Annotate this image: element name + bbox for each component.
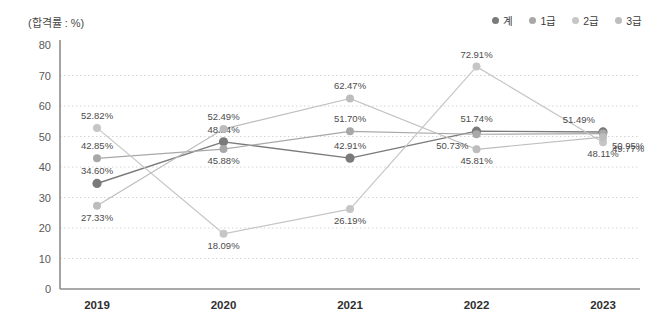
data-point-value-label: 52.49%: [207, 111, 240, 122]
data-point-value-label: 62.47%: [334, 80, 367, 91]
data-point-marker[interactable]: [346, 94, 354, 102]
y-axis-tick-label: 30: [39, 192, 51, 204]
y-axis-tick-label: 0: [45, 283, 51, 295]
data-point-marker[interactable]: [473, 130, 481, 138]
y-axis-tick-label: 40: [39, 161, 51, 173]
data-point-value-label: 51.74%: [460, 113, 493, 124]
x-axis-tick-label: 2022: [464, 299, 490, 311]
data-point-value-label: 51.49%: [563, 114, 596, 125]
data-point-marker[interactable]: [346, 205, 354, 213]
data-point-value-label: 42.85%: [81, 140, 114, 151]
data-point-value-label: 49.77%: [612, 143, 645, 154]
x-axis-tick-label: 2023: [590, 299, 616, 311]
data-point-marker[interactable]: [220, 125, 228, 133]
data-point-value-label: 52.82%: [81, 110, 114, 121]
data-point-value-label: 34.60%: [81, 165, 114, 176]
data-point-marker[interactable]: [345, 154, 354, 163]
data-point-marker[interactable]: [599, 133, 607, 141]
data-point-value-label: 50.73%: [436, 140, 469, 151]
data-point-marker[interactable]: [220, 145, 228, 153]
data-point-marker[interactable]: [220, 230, 228, 238]
pass-rate-line-chart: (합격률 : %) 계1급2급3급 0102030405060708020192…: [0, 0, 654, 321]
chart-plot-area: 010203040506070802019202020212022202334.…: [0, 0, 654, 321]
y-axis-tick-label: 20: [39, 222, 51, 234]
x-axis-tick-label: 2019: [84, 299, 110, 311]
data-point-value-label: 72.91%: [460, 49, 493, 60]
data-point-value-label: 51.70%: [334, 113, 367, 124]
y-axis-tick-label: 50: [39, 131, 51, 143]
y-axis-tick-label: 70: [39, 70, 51, 82]
data-point-value-label: 42.91%: [334, 140, 367, 151]
x-axis-tick-label: 2021: [337, 299, 363, 311]
y-axis-tick-label: 60: [39, 100, 51, 112]
data-point-marker[interactable]: [473, 63, 481, 71]
y-axis-tick-label: 10: [39, 253, 51, 265]
data-point-value-label: 26.19%: [334, 215, 367, 226]
data-point-marker[interactable]: [93, 124, 101, 132]
data-point-marker[interactable]: [93, 154, 101, 162]
data-point-value-label: 18.09%: [207, 240, 240, 251]
data-point-value-label: 45.88%: [207, 155, 240, 166]
data-point-marker[interactable]: [93, 202, 101, 210]
x-axis-tick-label: 2020: [211, 299, 237, 311]
data-point-marker[interactable]: [92, 179, 101, 188]
y-axis-tick-label: 80: [39, 39, 51, 51]
data-point-marker[interactable]: [473, 145, 481, 153]
data-point-value-label: 27.33%: [81, 212, 114, 223]
data-point-value-label: 45.81%: [460, 155, 493, 166]
data-point-marker[interactable]: [346, 127, 354, 135]
